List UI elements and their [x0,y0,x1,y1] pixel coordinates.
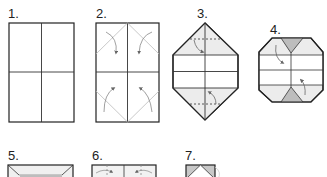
origami-diagram: 1. 2. 3. 4. [0,0,327,177]
step-4: 4. [259,22,323,102]
step-7: 7. [185,148,219,177]
step-1-label: 1. [8,6,19,21]
step-5: 5. [8,148,73,177]
step-6: 6. [92,148,156,177]
step-6-label: 6. [92,148,103,163]
step-5-label: 5. [8,148,19,163]
step-2-label: 2. [96,6,107,21]
step-3: 3. [173,6,238,120]
step-1: 1. [8,6,74,122]
step-3-label: 3. [197,6,208,21]
step-2: 2. [96,6,159,122]
step-7-label: 7. [185,148,196,163]
step-4-label: 4. [270,22,281,37]
